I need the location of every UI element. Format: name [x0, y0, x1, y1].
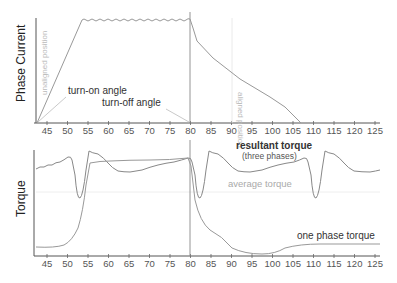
y-axis-label-torque: Torque — [14, 180, 28, 217]
chart-figure: 45 50 55 60 65 70 75 80 85 90 95 100 105… — [0, 0, 397, 283]
tick-label: 65 — [124, 125, 135, 136]
turn-on-pointer — [38, 97, 66, 122]
tick-label: 105 — [285, 258, 301, 269]
turn-off-pointer — [166, 109, 189, 122]
tick-label: 50 — [62, 258, 73, 269]
annotation-resultant-torque: resultant torque — [236, 140, 313, 151]
bottom-x-tick-labels: 45 50 55 60 65 70 75 80 85 90 95 100 105… — [42, 258, 383, 269]
tick-label: 80 — [185, 258, 196, 269]
annotation-average-torque: average torque — [228, 178, 292, 189]
tick-label: 90 — [226, 125, 237, 136]
y-axis-label-phase-current: Phase Current — [14, 24, 28, 102]
tick-label: 75 — [165, 125, 176, 136]
annotation-turn-on-angle: turn-on angle — [68, 85, 127, 96]
tick-label: 95 — [247, 125, 258, 136]
tick-label: 85 — [206, 258, 217, 269]
tick-label: 90 — [226, 258, 237, 269]
tick-label: 60 — [103, 125, 114, 136]
annotation-turn-off-angle: turn-off angle — [102, 97, 161, 108]
tick-label: 70 — [144, 125, 155, 136]
tick-label: 105 — [285, 125, 301, 136]
tick-label: 125 — [367, 125, 383, 136]
annotation-one-phase-torque: one phase torque — [297, 230, 375, 241]
tick-label: 100 — [265, 258, 281, 269]
tick-label: 110 — [306, 258, 321, 269]
phase-current-series — [37, 19, 301, 123]
phase-current-chart: 45 50 55 60 65 70 75 80 85 90 95 100 105… — [14, 12, 383, 148]
tick-label: 75 — [165, 258, 176, 269]
tick-label: 65 — [124, 258, 135, 269]
tick-label: 85 — [206, 125, 217, 136]
tick-label: 110 — [306, 125, 321, 136]
annotation-unaligned-position: unaligned position — [40, 31, 49, 96]
tick-label: 125 — [367, 258, 383, 269]
tick-label: 80 — [185, 125, 196, 136]
annotation-resultant-torque-subtext: (three phases) — [242, 151, 297, 161]
tick-label: 100 — [265, 125, 281, 136]
tick-label: 70 — [144, 258, 155, 269]
tick-label: 120 — [347, 125, 363, 136]
torque-chart: 45 50 55 60 65 70 75 80 85 90 95 100 105… — [14, 140, 383, 269]
tick-label: 50 — [62, 125, 73, 136]
tick-label: 115 — [326, 258, 341, 269]
tick-label: 60 — [103, 258, 114, 269]
tick-label: 115 — [326, 125, 341, 136]
top-x-tick-labels: 45 50 55 60 65 70 75 80 85 90 95 100 105… — [42, 125, 383, 136]
tick-label: 45 — [42, 258, 53, 269]
tick-label: 120 — [347, 258, 363, 269]
tick-label: 55 — [83, 125, 94, 136]
tick-label: 55 — [83, 258, 94, 269]
tick-label: 45 — [42, 125, 53, 136]
tick-label: 95 — [247, 258, 258, 269]
